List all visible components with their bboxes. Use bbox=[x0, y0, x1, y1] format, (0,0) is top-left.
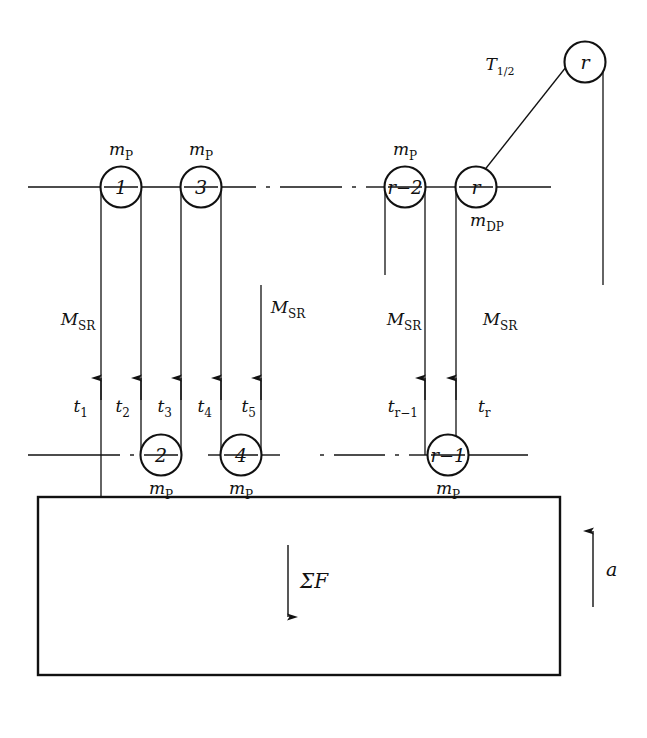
rope-strands bbox=[101, 62, 603, 497]
tension-label-t1: t1 bbox=[74, 396, 88, 420]
strand-mass-labels: MSR MSR MSR MSR bbox=[60, 297, 519, 333]
sum-force-label: ΣF bbox=[299, 569, 329, 593]
pulley-label-1: 1 bbox=[115, 176, 127, 198]
pulley-label-r-1: r−1 bbox=[430, 445, 465, 466]
strand-label-mid: MSR bbox=[270, 297, 307, 321]
tension-label-tr-1: tr−1 bbox=[388, 396, 418, 420]
mass-label-pulley-3: mP bbox=[189, 139, 213, 163]
strand-label-r: MSR bbox=[482, 309, 519, 333]
strand-label-left: MSR bbox=[60, 309, 97, 333]
pulley-label-4: 4 bbox=[234, 444, 247, 466]
strand-label-r-2: MSR bbox=[386, 309, 423, 333]
tension-labels: t1 t2 t3 t4 t5 tr−1 tr bbox=[74, 396, 491, 420]
tension-label-t3: t3 bbox=[158, 396, 172, 420]
diagram-canvas: 1 3 r−2 r 2 4 r−1 r mP mP mP mDP mP mP m… bbox=[0, 0, 647, 738]
tension-label-t4: t4 bbox=[198, 396, 213, 420]
tension-label-t5: t5 bbox=[242, 396, 256, 420]
tension-arrows bbox=[101, 378, 456, 400]
pulley-label-2: 2 bbox=[154, 444, 167, 466]
tension-label-T-half: T1/2 bbox=[485, 54, 514, 78]
mass-label-pulley-r: mDP bbox=[470, 210, 504, 234]
tension-label-tr: tr bbox=[478, 396, 491, 420]
acceleration-label: a bbox=[606, 558, 617, 580]
pulley-label-r-2: r−2 bbox=[387, 177, 422, 198]
tension-label-t2: t2 bbox=[116, 396, 130, 420]
mass-label-pulley-r-2: mP bbox=[393, 139, 417, 163]
pulley-system-figure: 1 3 r−2 r 2 4 r−1 r mP mP mP mDP mP mP m… bbox=[0, 0, 647, 738]
pulley-label-3: 3 bbox=[195, 176, 207, 198]
mass-label-pulley-1: mP bbox=[109, 139, 133, 163]
block-body bbox=[38, 497, 560, 675]
